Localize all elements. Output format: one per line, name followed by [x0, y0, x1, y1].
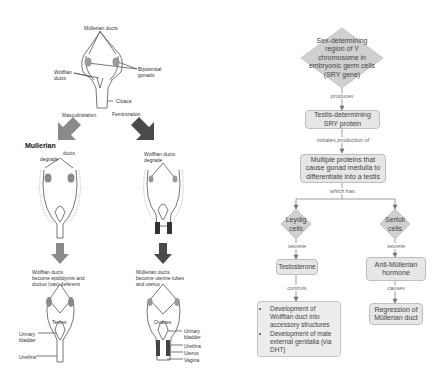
node-leydig-cells: Leydig cells: [282, 216, 310, 233]
node-anti-mullerian-hormone: Anti-Müllerian hormone: [366, 257, 426, 281]
edge-label-sertoli-secrete: secrete: [383, 243, 409, 249]
node-regression-mullerian: Regression of Müllerian duct: [369, 303, 423, 325]
node-sry-gene: Sex-determining region of Y chromosome i…: [306, 40, 378, 76]
node-sry-protein: Testis-determining SRY protein: [305, 110, 380, 129]
effect-male-genitalia: Development of male external genitalia (…: [270, 330, 336, 354]
effect-wolffian-duct: Development of Wolffian duct into access…: [270, 305, 336, 329]
edge-label-produces: produces: [324, 93, 360, 99]
edge-label-controls: controls: [282, 285, 312, 291]
edge-label-causes: causes: [383, 285, 409, 291]
node-testosterone: Testosterone: [276, 259, 318, 275]
node-sertoli-cells: Sertoli cells: [381, 216, 409, 233]
edge-label-initiates: initiates production of: [305, 137, 381, 143]
edge-label-which-has: which has:: [325, 188, 361, 194]
node-multiple-proteins: Multiple proteins that cause gonad medul…: [300, 154, 386, 183]
edge-label-leydig-secrete: secrete: [284, 243, 310, 249]
node-testosterone-effects: Development of Wolffian duct into access…: [257, 301, 341, 357]
